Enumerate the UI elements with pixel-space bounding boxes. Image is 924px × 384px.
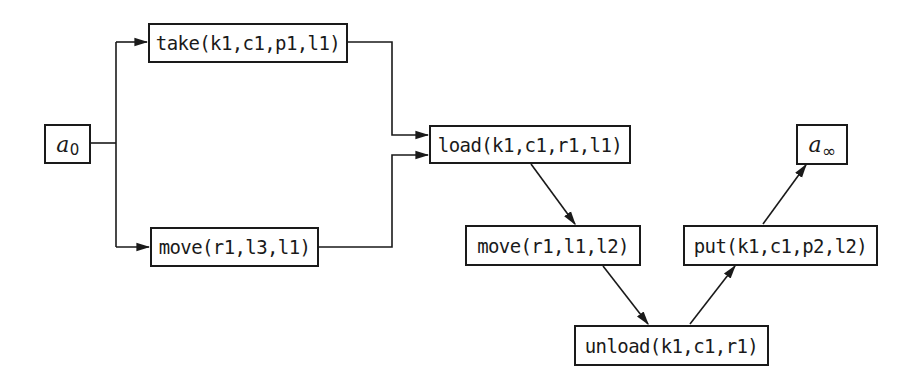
edge-take-to-load [348,42,428,135]
node-move1-label: move(r1,l3,l1) [159,236,311,258]
node-unload: unload(k1,c1,r1) [574,325,769,366]
node-put: put(k1,c1,p2,l2) [683,225,878,266]
node-load: load(k1,c1,r1,l1) [429,125,631,164]
plan-diagram: a0 take(k1,c1,p1,l1) move(r1,l3,l1) load… [0,0,924,384]
node-end: a∞ [796,124,848,165]
node-end-subscript: ∞ [822,141,836,161]
node-start: a0 [44,124,91,164]
node-move2: move(r1,l1,l2) [465,225,641,266]
edge-move2-to-unload [603,266,648,324]
node-put-label: put(k1,c1,p2,l2) [694,235,867,257]
node-unload-label: unload(k1,c1,r1) [585,335,758,357]
edge-unload-to-put [690,266,735,324]
edge-start-fork [91,42,116,247]
edge-load-to-move2 [531,164,575,224]
node-end-label: a [808,132,821,157]
node-take-label: take(k1,c1,p1,l1) [156,32,340,54]
edge-move1-to-load [319,155,428,247]
node-move1: move(r1,l3,l1) [150,227,319,267]
edges-layer [0,0,924,384]
edge-put-to-end [763,165,806,224]
node-load-label: load(k1,c1,r1,l1) [438,134,622,156]
node-take: take(k1,c1,p1,l1) [148,23,348,63]
node-start-label: a [56,132,69,157]
node-start-subscript: 0 [70,141,79,159]
node-move2-label: move(r1,l1,l2) [477,235,629,257]
